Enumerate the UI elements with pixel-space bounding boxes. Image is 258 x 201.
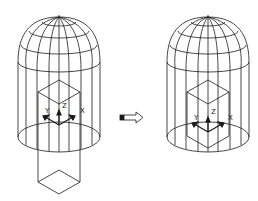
svg-text:Y: Y — [193, 114, 199, 122]
diagram: Z Y X Z Y X — [0, 0, 258, 201]
svg-text:Y: Y — [44, 107, 50, 115]
after-model: Z Y X — [167, 15, 249, 152]
right-arrow-icon — [120, 112, 143, 123]
svg-text:X: X — [80, 107, 85, 115]
svg-text:X: X — [228, 114, 233, 122]
before-model: Z Y X — [18, 15, 100, 194]
svg-text:Z: Z — [62, 102, 67, 110]
svg-text:Z: Z — [211, 108, 216, 116]
